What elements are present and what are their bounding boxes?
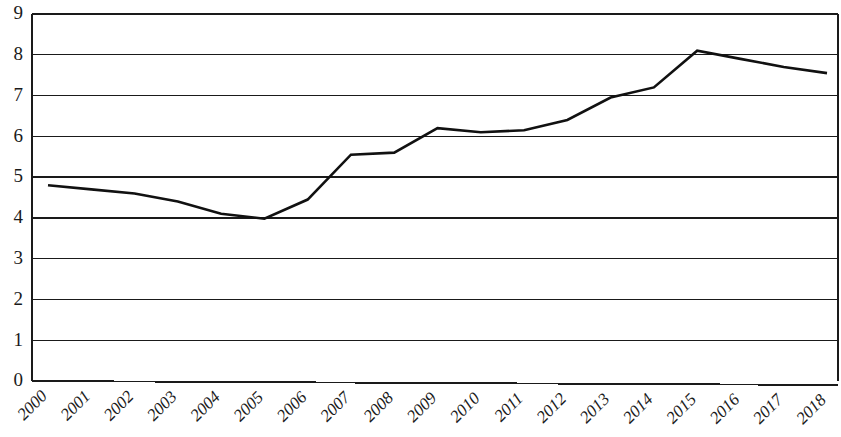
x-tick-label-2014: 2014 xyxy=(619,389,657,427)
y-tick-label-6: 6 xyxy=(14,125,24,146)
x-tick-label-2013: 2013 xyxy=(576,389,613,426)
x-tick-label-2005: 2005 xyxy=(230,388,267,425)
y-tick-label-3: 3 xyxy=(14,247,24,268)
x-tick-label-2012: 2012 xyxy=(533,389,571,427)
x-tick-label-2003: 2003 xyxy=(143,387,180,424)
x-tick-label-2007: 2007 xyxy=(316,387,355,426)
x-tick-label-2000: 2000 xyxy=(13,386,51,424)
y-tick-label-5: 5 xyxy=(14,165,24,186)
line-chart: 0123456789200020012002200320042005200620… xyxy=(0,0,841,437)
y-tick-label-0: 0 xyxy=(14,369,24,390)
y-tick-label-7: 7 xyxy=(14,84,24,105)
x-tick-label-2011: 2011 xyxy=(490,389,527,426)
y-tick-label-9: 9 xyxy=(14,2,24,23)
x-axis-line xyxy=(32,381,838,385)
x-tick-label-2002: 2002 xyxy=(100,386,138,424)
data-series-line xyxy=(48,51,827,219)
y-tick-label-1: 1 xyxy=(14,329,24,350)
chart-canvas: 0123456789200020012002200320042005200620… xyxy=(0,0,841,437)
x-tick-label-2017: 2017 xyxy=(749,389,788,428)
x-tick-label-2004: 2004 xyxy=(186,387,224,425)
y-tick-label-2: 2 xyxy=(14,288,24,309)
x-tick-label-2009: 2009 xyxy=(403,388,441,426)
x-tick-label-2016: 2016 xyxy=(706,390,744,428)
x-tick-label-2018: 2018 xyxy=(792,390,830,428)
x-tick-label-2015: 2015 xyxy=(663,390,700,427)
x-tick-label-2008: 2008 xyxy=(360,388,398,426)
y-tick-label-8: 8 xyxy=(14,43,24,64)
x-tick-label-2001: 2001 xyxy=(57,387,94,424)
y-tick-label-4: 4 xyxy=(14,206,24,227)
x-tick-label-2006: 2006 xyxy=(273,387,311,425)
x-tick-label-2010: 2010 xyxy=(446,388,484,426)
